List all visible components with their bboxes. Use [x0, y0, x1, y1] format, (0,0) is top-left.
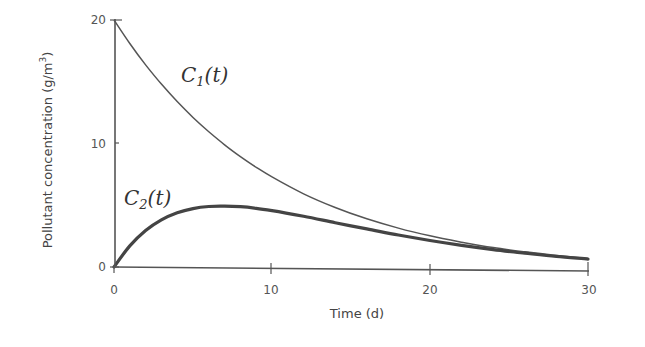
x-axis: 0 10 20 30 Time (d) [110, 262, 596, 321]
curve-label-c1: C1(t) [181, 63, 228, 89]
y-axis-title: Pollutant concentration (g/m3) [38, 52, 55, 249]
y-tick-label-10: 10 [91, 137, 106, 151]
x-tick-label-10: 10 [263, 283, 278, 297]
curve-c1 [114, 20, 588, 258]
y-tick-label-20: 20 [91, 13, 106, 27]
x-tick-label-0: 0 [110, 283, 118, 297]
chart: 20 10 0 0 10 20 30 Time (d) Pollutant co… [0, 0, 645, 347]
x-axis-title: Time (d) [329, 306, 384, 321]
curve-c2 [114, 206, 588, 267]
curve-label-c2: C2(t) [124, 186, 171, 212]
x-tick-label-20: 20 [422, 283, 437, 297]
y-tick-label-0: 0 [98, 260, 106, 274]
y-axis: 20 10 0 [91, 13, 122, 274]
plot-area [114, 20, 588, 267]
x-tick-label-30: 30 [581, 283, 596, 297]
